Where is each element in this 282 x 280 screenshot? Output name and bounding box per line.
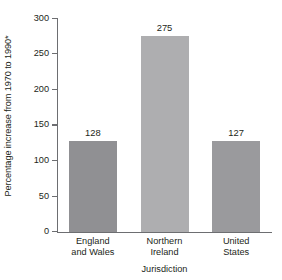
y-axis-tick-mark [52, 18, 57, 19]
y-axis-tick-label: 100 [9, 155, 49, 165]
y-axis-tick-label: 50 [9, 191, 49, 201]
bar-chart: Percentage increase from 1970 to 1990* 3… [0, 0, 282, 280]
y-axis-tick-mark [52, 89, 57, 90]
y-axis-tick-label: 250 [9, 48, 49, 58]
x-axis-category-label-line: Northern [129, 236, 201, 247]
y-axis-tick-label: 150 [9, 119, 49, 129]
y-axis-tick-label: 200 [9, 84, 49, 94]
y-axis-tick-label: 300 [9, 13, 49, 23]
y-axis-tick-mark [52, 231, 57, 232]
bar-value-label: 128 [63, 127, 123, 138]
y-axis-tick-mark [52, 53, 57, 54]
x-axis-category-label-line: States [200, 247, 272, 258]
x-axis-category-label-line: United [200, 236, 272, 247]
y-axis-tick-label: 0 [9, 226, 49, 236]
bar-value-label: 127 [206, 127, 266, 138]
x-axis-category-label: NorthernIreland [129, 236, 201, 259]
y-axis-tick-mark [52, 196, 57, 197]
bar [212, 141, 260, 231]
x-axis-category-label-line: Ireland [129, 247, 201, 258]
bar-value-label: 275 [135, 22, 195, 33]
x-axis-category-label-line: England [57, 236, 129, 247]
bar [69, 141, 117, 232]
y-axis-tick-mark [52, 160, 57, 161]
y-axis-line [57, 18, 58, 233]
x-axis-category-label: UnitedStates [200, 236, 272, 259]
x-axis-category-label: Englandand Wales [57, 236, 129, 259]
bar [141, 36, 189, 232]
y-axis-tick-mark [52, 124, 57, 125]
x-axis-line [57, 232, 272, 233]
x-axis-category-label-line: and Wales [57, 247, 129, 258]
x-axis-title: Jurisdiction [57, 264, 272, 274]
